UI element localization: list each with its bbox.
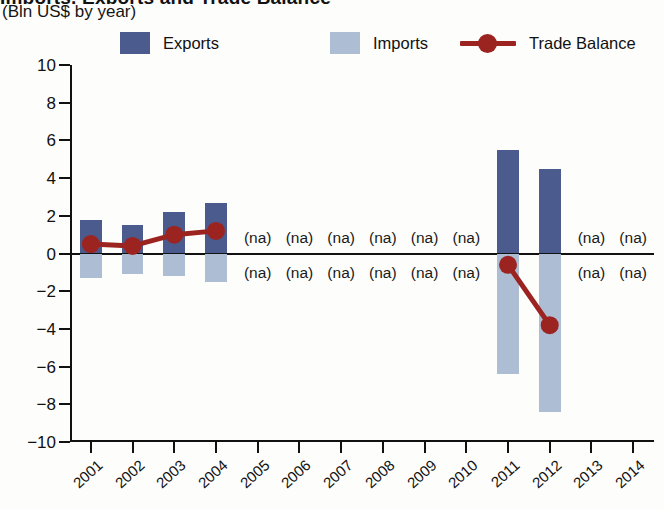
y-axis-tick (59, 328, 70, 330)
x-axis-tick (340, 442, 342, 453)
x-axis-tick-label: 2001 (70, 457, 105, 490)
x-axis-tick (424, 442, 426, 453)
x-axis-tick (632, 442, 634, 453)
legend-item-imports: Imports (330, 30, 428, 56)
y-axis-tick (59, 290, 70, 292)
y-axis-tick-label: −2 (12, 283, 56, 300)
trade-balance-marker (124, 237, 142, 255)
y-axis-tick (59, 253, 70, 255)
y-axis-tick-label: 10 (12, 57, 56, 74)
x-axis-tick (507, 442, 509, 453)
x-axis-tick-label: 2003 (153, 457, 188, 490)
chart-legend: Exports Imports Trade Balance (120, 30, 660, 56)
trade-balance-marker (82, 235, 100, 253)
legend-label-imports: Imports (373, 34, 428, 53)
y-axis-tick (59, 215, 70, 217)
y-axis-tick-label: 2 (12, 207, 56, 224)
y-axis-tick (59, 177, 70, 179)
trade-balance-marker (207, 222, 225, 240)
x-axis-tick (382, 442, 384, 453)
x-axis-tick-label: 2009 (404, 457, 439, 490)
y-axis-tick (59, 64, 70, 66)
x-axis-tick (132, 442, 134, 453)
chart-subtitle: (Bln US$ by year) (2, 2, 136, 22)
x-axis-tick-label: 2008 (362, 457, 397, 490)
plot-area: 1086420−2−4−6−8−10 200120022003200420052… (70, 65, 654, 442)
y-axis-tick-label: 8 (12, 94, 56, 111)
line-marker-icon-trade-balance (460, 32, 516, 54)
legend-label-trade-balance: Trade Balance (529, 34, 636, 53)
trade-balance-line-segment (91, 231, 216, 246)
x-axis-tick-label: 2006 (279, 457, 314, 490)
y-axis-tick-label: −10 (12, 434, 56, 451)
x-axis-tick-label: 2011 (488, 457, 522, 490)
legend-label-exports: Exports (163, 34, 219, 53)
trade-balance-marker (165, 226, 183, 244)
y-axis-tick-label: 4 (12, 170, 56, 187)
x-axis-tick (173, 442, 175, 453)
x-axis-tick (465, 442, 467, 453)
y-axis-tick-label: −4 (12, 320, 56, 337)
trade-balance-chart: Imports, Exports and Trade Balance (Bln … (0, 0, 664, 509)
x-axis-tick (215, 442, 217, 453)
x-axis-tick-label: 2004 (195, 457, 230, 490)
x-axis-tick (590, 442, 592, 453)
legend-item-exports: Exports (120, 30, 219, 56)
trade-balance-line-segment (508, 265, 550, 325)
trade-balance-line (70, 65, 654, 442)
y-axis-tick-label: 6 (12, 132, 56, 149)
y-axis-tick (59, 102, 70, 104)
y-axis-tick-label: −6 (12, 358, 56, 375)
trade-balance-marker (499, 256, 517, 274)
x-axis-tick (549, 442, 551, 453)
legend-item-trade-balance: Trade Balance (460, 30, 636, 56)
y-axis-tick-label: −8 (12, 396, 56, 413)
x-axis-tick-label: 2002 (112, 457, 147, 490)
x-axis-tick (90, 442, 92, 453)
x-axis-tick-label: 2014 (612, 457, 647, 490)
y-axis-tick (59, 366, 70, 368)
x-axis-tick-label: 2005 (237, 457, 272, 490)
x-axis-tick-label: 2010 (445, 457, 480, 490)
x-axis-tick-label: 2013 (571, 457, 606, 490)
x-axis-tick-label: 2007 (320, 457, 355, 490)
y-axis-tick (59, 139, 70, 141)
y-axis-tick (59, 403, 70, 405)
y-axis-tick (59, 441, 70, 443)
trade-balance-marker (541, 316, 559, 334)
x-axis-tick-label: 2012 (529, 457, 564, 490)
square-swatch-icon-imports (330, 32, 360, 54)
y-axis-tick-label: 0 (12, 245, 56, 262)
x-axis-tick (257, 442, 259, 453)
square-swatch-icon-exports (120, 32, 150, 54)
x-axis-tick (298, 442, 300, 453)
